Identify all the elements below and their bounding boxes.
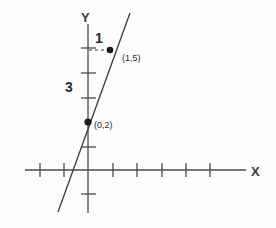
plotted-line xyxy=(58,13,130,212)
x-axis-label: X xyxy=(251,165,260,178)
point-label-0-2: (0,2) xyxy=(94,121,113,130)
rise-annotation-label: 3 xyxy=(65,80,73,94)
graph-figure: Y X 1 3 (1,5) (0,2) xyxy=(0,0,276,228)
run-annotation-label: 1 xyxy=(95,31,103,45)
data-point-1-5 xyxy=(107,47,114,54)
point-label-1-5: (1,5) xyxy=(122,54,141,63)
coordinate-plane-svg xyxy=(0,0,276,228)
data-point-0-2 xyxy=(84,118,91,125)
y-axis-label: Y xyxy=(81,11,90,24)
